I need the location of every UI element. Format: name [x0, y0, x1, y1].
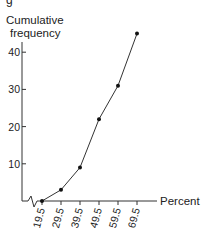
x-axis-label: Percent — [160, 195, 200, 207]
y-tick-label: 20 — [8, 121, 20, 133]
data-line — [42, 34, 137, 201]
data-point — [135, 32, 139, 36]
y-tick-label: 30 — [8, 83, 20, 95]
data-point — [78, 166, 82, 170]
x-tick-label: 19.5 — [30, 206, 47, 229]
data-point — [40, 199, 44, 203]
x-tick-label: 49.5 — [87, 206, 104, 229]
y-tick-label: 10 — [8, 158, 20, 170]
data-point — [97, 117, 101, 121]
y-tick-label: 40 — [8, 46, 20, 58]
x-tick-label: 59.5 — [106, 206, 123, 229]
x-tick-label: 39.5 — [68, 206, 85, 229]
x-tick-label: 29.5 — [49, 206, 66, 229]
data-point — [116, 84, 120, 88]
data-point — [59, 188, 63, 192]
x-tick-label: 69.5 — [125, 206, 142, 229]
